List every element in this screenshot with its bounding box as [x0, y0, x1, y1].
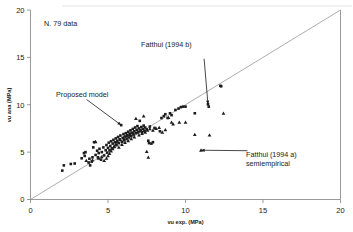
- data-point-square: [170, 114, 173, 117]
- data-point-square: [63, 164, 66, 167]
- data-point-square: [101, 151, 104, 154]
- data-point-square: [152, 141, 155, 144]
- data-point-square: [174, 109, 177, 112]
- data-point-square: [180, 106, 183, 109]
- data-point-square: [159, 130, 162, 133]
- data-point-square: [104, 149, 107, 152]
- data-point-triangle: [184, 120, 188, 123]
- data-point-square: [194, 112, 197, 115]
- annotation-fatthui-1994-b: Fatthui (1994 b): [141, 40, 192, 49]
- annotation-proposed-model: Proposed model: [56, 90, 109, 99]
- data-point-triangle: [134, 117, 138, 120]
- data-point-square: [109, 145, 112, 148]
- data-point-square: [110, 140, 113, 143]
- data-point-square: [220, 85, 223, 88]
- data-point-square: [148, 142, 151, 145]
- data-point-square: [207, 105, 210, 108]
- data-point-square: [182, 105, 185, 108]
- data-point-triangle: [222, 111, 226, 114]
- data-point-square: [122, 133, 125, 136]
- data-point-square: [89, 164, 92, 167]
- x-tick-label-0: 0: [28, 206, 32, 215]
- sample-count-note: N. 79 data: [44, 19, 77, 28]
- data-point-triangle: [157, 126, 161, 129]
- data-point-square: [98, 148, 101, 151]
- data-point-square: [132, 128, 135, 131]
- data-point-square: [129, 129, 132, 132]
- data-point-triangle: [142, 114, 146, 117]
- data-point-square: [164, 113, 167, 116]
- y-tick-label-15: 15: [16, 53, 24, 62]
- data-point-square: [92, 146, 95, 149]
- data-point-square: [117, 136, 120, 139]
- data-point-square: [97, 152, 100, 155]
- data-point-triangle: [163, 128, 167, 131]
- y-tick-label-20: 20: [16, 6, 24, 15]
- chart-figure: 05101520 05101520 N. 79 data Proposed mo…: [0, 0, 353, 232]
- y-tick-label-5: 5: [20, 148, 24, 157]
- data-point-square: [73, 162, 76, 165]
- data-point-square: [138, 120, 141, 123]
- data-point-square: [119, 134, 122, 137]
- data-point-square: [160, 117, 163, 120]
- data-point-square: [125, 138, 128, 141]
- data-point-square: [106, 151, 109, 154]
- y-axis-title: vu ana (MPa): [6, 88, 12, 123]
- data-point-square: [136, 125, 139, 128]
- data-series-triangle: [84, 111, 225, 162]
- data-point-triangle: [193, 133, 197, 136]
- x-tick-label-5: 5: [106, 206, 110, 215]
- x-tick-label-10: 10: [181, 206, 189, 215]
- data-point-square: [105, 144, 108, 147]
- annotation-fatthui-1994-a-line2: semiempirical: [246, 159, 290, 168]
- data-point-square: [147, 139, 150, 142]
- y-axis-tick-labels: 05101520: [16, 6, 24, 205]
- data-point-square: [177, 107, 180, 110]
- x-axis-title: vu exp. (MPa): [167, 219, 203, 225]
- annotation-leader-lines: [87, 59, 248, 152]
- leader-line-proposed-model: [87, 100, 122, 126]
- leader-line-fatthui-1994-b: [204, 59, 208, 104]
- data-point-square: [112, 139, 115, 142]
- x-axis-tick-labels: 05101520: [28, 206, 344, 215]
- data-point-square: [61, 169, 64, 172]
- data-point-square: [107, 141, 110, 144]
- annotation-fatthui-1994-a-line1: Fatthui (1994 a): [246, 150, 297, 159]
- x-tick-label-20: 20: [336, 206, 344, 215]
- data-point-square: [83, 155, 86, 158]
- data-point-square: [84, 151, 87, 154]
- x-tick-label-15: 15: [259, 206, 267, 215]
- y-tick-label-10: 10: [16, 101, 24, 110]
- data-point-triangle: [208, 133, 212, 136]
- data-point-square: [88, 157, 91, 160]
- data-point-square: [80, 157, 83, 160]
- data-point-square: [96, 149, 99, 152]
- data-point-square: [111, 142, 114, 145]
- scatter-plot: 05101520 05101520 N. 79 data Proposed mo…: [0, 0, 353, 232]
- data-point-square: [94, 154, 97, 157]
- data-point-square: [134, 126, 137, 129]
- data-point-square: [184, 105, 187, 108]
- data-point-square: [102, 146, 105, 149]
- data-point-triangle: [84, 159, 88, 162]
- x-axis-ticks: [31, 200, 341, 204]
- data-point-triangle: [177, 120, 181, 123]
- data-point-square: [70, 163, 73, 166]
- y-axis-ticks: [27, 10, 31, 200]
- leader-arrowhead-proposed-model: [117, 122, 121, 125]
- data-point-square: [91, 156, 94, 159]
- data-point-triangle: [91, 158, 95, 161]
- y-tick-label-0: 0: [20, 195, 24, 204]
- data-point-triangle: [146, 155, 150, 158]
- data-point-square: [107, 147, 110, 150]
- data-point-square: [114, 137, 117, 140]
- data-point-square: [103, 154, 106, 157]
- data-point-triangle: [145, 150, 149, 153]
- identity-reference-line: [31, 10, 341, 200]
